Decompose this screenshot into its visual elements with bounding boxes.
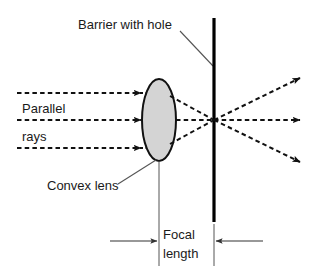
convex-lens-leader-line	[118, 160, 156, 184]
convex-lens-label: Convex lens	[47, 178, 119, 193]
focal-length-label-line2: length	[163, 246, 198, 261]
diagram-canvas: Barrier with hole Parallel rays Convex l…	[0, 0, 318, 274]
convex-lens-shape	[142, 79, 176, 161]
parallel-label: Parallel	[22, 101, 65, 116]
rays-label: rays	[22, 129, 47, 144]
barrier-label: Barrier with hole	[78, 17, 172, 32]
diverging-ray-bottom	[214, 120, 300, 162]
barrier-leader-line	[180, 31, 213, 66]
optics-diagram: Barrier with hole Parallel rays Convex l…	[0, 0, 318, 274]
diverging-ray-top	[214, 78, 300, 120]
focal-length-label-line1: Focal	[163, 227, 195, 242]
